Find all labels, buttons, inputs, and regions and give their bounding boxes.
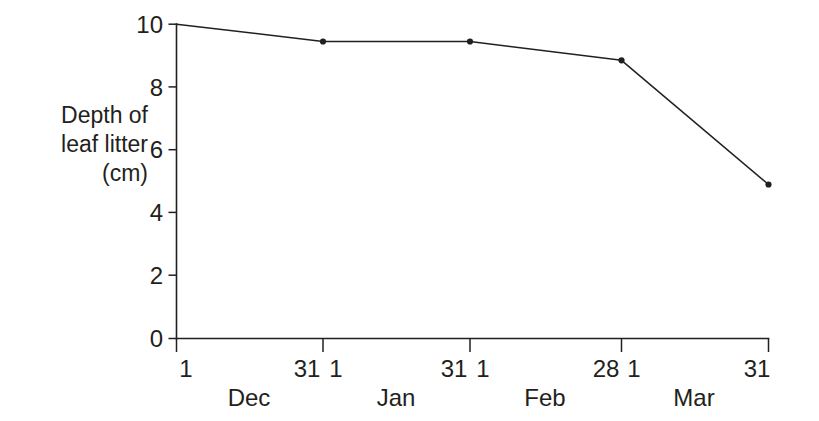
x-month-label-dec: Dec: [228, 384, 271, 411]
x-axis-month-labels: Dec Jan Feb Mar: [228, 384, 715, 411]
axes: [177, 24, 769, 339]
data-point-marker: [320, 38, 326, 44]
chart-page: Depth of leaf litter (cm) 10 8 6 4 2: [0, 0, 819, 421]
x-month-label-mar: Mar: [673, 384, 714, 411]
y-tick-label-4: 4: [150, 199, 163, 226]
x-day-label-31-dec: 31: [294, 355, 321, 382]
x-day-label-1-feb: 1: [476, 355, 489, 382]
y-axis-title-line-2: leaf litter: [61, 131, 148, 157]
data-point-marker: [765, 181, 771, 187]
x-month-label-jan: Jan: [377, 384, 416, 411]
data-point-marker: [618, 57, 624, 63]
x-month-label-feb: Feb: [524, 384, 565, 411]
x-axis-day-labels: 1 31 1 31 1 28 1 31: [179, 355, 770, 382]
x-axis-ticks: [177, 339, 769, 353]
x-day-label-28-feb: 28: [593, 355, 620, 382]
y-tick-label-8: 8: [150, 74, 163, 101]
y-tick-label-10: 10: [136, 11, 163, 38]
x-day-label-31-mar: 31: [744, 355, 771, 382]
y-tick-label-2: 2: [150, 262, 163, 289]
x-day-label-1-mar: 1: [627, 355, 640, 382]
data-series-layer: [177, 24, 772, 187]
y-axis-ticks: [169, 24, 177, 338]
line-chart: Depth of leaf litter (cm) 10 8 6 4 2: [0, 0, 819, 421]
y-axis-title-line-1: Depth of: [61, 102, 149, 128]
y-axis-title-line-3: (cm): [102, 160, 148, 186]
y-tick-label-6: 6: [150, 136, 163, 163]
x-day-label-31-jan: 31: [441, 355, 468, 382]
x-day-label-1-jan: 1: [329, 355, 342, 382]
data-point-marker: [467, 38, 473, 44]
x-day-label-1-dec: 1: [179, 355, 192, 382]
y-axis-title: Depth of leaf litter (cm): [61, 102, 149, 186]
data-line-0: [177, 24, 769, 184]
y-tick-label-0: 0: [150, 325, 163, 352]
